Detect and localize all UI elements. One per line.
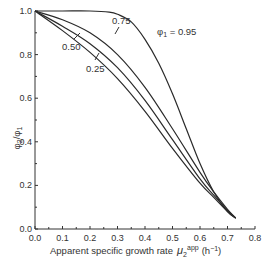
x-tick-label: 0.6 bbox=[194, 233, 207, 243]
y-tick-label: 0.6 bbox=[19, 93, 32, 103]
x-tick-label: 0.2 bbox=[84, 233, 97, 243]
y-tick-label: 0.8 bbox=[19, 50, 32, 60]
label-050: 0.50 bbox=[62, 41, 81, 52]
chart: 0.00.10.20.30.40.50.60.70.8 0.00.20.40.6… bbox=[0, 0, 263, 270]
x-tick-label: 0.8 bbox=[249, 233, 262, 243]
label-phi-095: φ1 = 0.95 bbox=[157, 26, 196, 38]
x-tick-label: 0.3 bbox=[111, 233, 124, 243]
y-tick-label: 0.0 bbox=[19, 224, 32, 234]
y-axis-label: φ2/φ1 bbox=[11, 127, 23, 150]
x-axis-label: Apparent specific growth rateμ2app(h−1) bbox=[50, 244, 221, 258]
x-tick-label: 0.1 bbox=[56, 233, 69, 243]
leader-075 bbox=[115, 27, 119, 34]
y-tick-label: 0.2 bbox=[19, 180, 32, 190]
y-tick-label: 1.0 bbox=[19, 6, 32, 16]
x-tick-label: 0.5 bbox=[166, 233, 179, 243]
label-025: 0.25 bbox=[86, 63, 105, 74]
x-tick-label: 0.0 bbox=[29, 233, 42, 243]
x-tick-label: 0.4 bbox=[139, 233, 152, 243]
label-075: 0.75 bbox=[112, 15, 131, 26]
x-tick-label: 0.7 bbox=[221, 233, 234, 243]
